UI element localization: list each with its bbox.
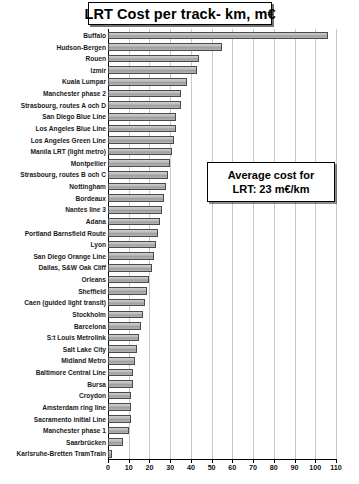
- bar: [108, 369, 133, 377]
- bar: [108, 438, 123, 446]
- bar: [108, 125, 176, 133]
- bar: [108, 415, 131, 423]
- x-tick-label: 60: [228, 463, 236, 472]
- bar: [108, 90, 181, 98]
- annotation-line-1: Average cost for: [228, 168, 314, 182]
- x-tick-label: 110: [330, 463, 342, 472]
- bar: [108, 183, 166, 191]
- x-tick-label: 100: [309, 463, 321, 472]
- bar: [108, 78, 187, 86]
- bar: [108, 334, 139, 342]
- bar: [108, 101, 181, 109]
- x-tick-label: 0: [106, 463, 110, 472]
- x-tick-label: 90: [291, 463, 299, 472]
- category-label: Karlsruhe-Bretten TramTrain: [17, 447, 106, 460]
- x-tick-label: 80: [270, 463, 278, 472]
- bar: [108, 345, 137, 353]
- bar: [108, 392, 131, 400]
- bar: [108, 403, 131, 411]
- bar: [108, 113, 176, 121]
- bar: [108, 194, 164, 202]
- bar: [108, 136, 174, 144]
- bar: [108, 55, 199, 63]
- x-tick-label: 20: [145, 463, 153, 472]
- bar: [108, 357, 135, 365]
- bar: [108, 171, 168, 179]
- bar: [108, 380, 133, 388]
- x-tick-label: 50: [208, 463, 216, 472]
- bar: [108, 159, 170, 167]
- chart-root: LRT Cost per track- km, m€ BuffaloHudson…: [0, 0, 359, 484]
- bar: [108, 450, 112, 458]
- bar: [108, 252, 154, 260]
- x-tick-label: 10: [125, 463, 133, 472]
- bar: [108, 206, 162, 214]
- bar: [108, 229, 158, 237]
- bar: [108, 299, 145, 307]
- bar: [108, 322, 141, 330]
- x-tick-label: 70: [249, 463, 257, 472]
- bar: [108, 218, 160, 226]
- bar: [108, 311, 143, 319]
- bar: [108, 427, 129, 435]
- bar: [108, 43, 222, 51]
- chart-title: LRT Cost per track- km, m€: [88, 2, 272, 25]
- average-cost-annotation: Average cost for LRT: 23 m€/km: [207, 162, 335, 202]
- bar: [108, 264, 152, 272]
- bar: [108, 148, 172, 156]
- bar: [108, 287, 147, 295]
- bar: [108, 276, 149, 284]
- annotation-line-2: LRT: 23 m€/km: [232, 182, 309, 196]
- bar: [108, 32, 328, 40]
- x-tick-label: 40: [187, 463, 195, 472]
- x-tick-label: 30: [166, 463, 174, 472]
- bar-row: Karlsruhe-Bretten TramTrain: [0, 447, 359, 460]
- bar: [108, 66, 197, 74]
- bar: [108, 241, 156, 249]
